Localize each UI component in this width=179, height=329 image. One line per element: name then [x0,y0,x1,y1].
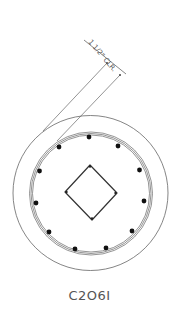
tie-corner-bar [89,165,91,167]
tie-corner-bars [65,165,116,219]
rebar-dot [34,201,39,206]
rebar-dot [37,169,42,174]
cage-ring [31,134,151,254]
leader-line [57,75,120,141]
cage-ring [30,132,153,255]
longitudinal-bars [34,135,147,252]
dimension-tick [119,74,121,76]
rebar-dot [137,168,142,173]
rebar-dot [57,145,62,150]
leader-lines [43,63,120,141]
rebar-dot [104,246,109,251]
rebar-dot [130,229,135,234]
rebar-dot [116,144,121,149]
leader-line [43,63,107,131]
rebar-dot [73,247,78,252]
rebar-dot [47,230,52,235]
tie-corner-bar [91,217,93,219]
tie-corner-bar [65,191,67,193]
rebar-dot [87,135,92,140]
spiral-cage-rings [30,132,153,255]
tie-corner-bar [114,192,116,194]
rebar-dot [142,199,147,204]
tie-diamond [65,165,117,220]
column-section-drawing: 1 1/2" CLR. [0,0,179,329]
section-label: C2O6I [0,288,179,303]
cage-ring [33,135,150,252]
